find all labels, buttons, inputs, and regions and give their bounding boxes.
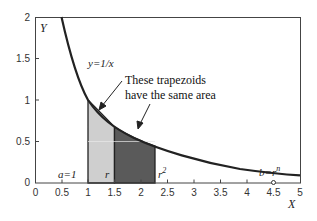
b-marker xyxy=(272,181,276,185)
a-label: a=1 xyxy=(58,168,76,180)
x-tick-5: 5 xyxy=(297,187,303,198)
x-tick-2.5: 2.5 xyxy=(161,187,175,198)
annotation-line-2: have the same area xyxy=(125,88,217,102)
x-tick-0: 0 xyxy=(33,187,39,198)
r-label: r xyxy=(105,168,110,180)
x-tick-4: 4 xyxy=(244,187,250,198)
y-tick-0.5: 0.5 xyxy=(16,136,30,147)
x-tick-3.5: 3.5 xyxy=(214,187,228,198)
curve-label: y=1/x xyxy=(87,57,114,69)
y-tick-1: 1 xyxy=(24,95,30,106)
annotation-line-1: These trapezoids xyxy=(125,73,206,87)
chart-canvas: 0 0.5 1 1.5 2 0 0.5 1 1.5 2 2.5 3 3.5 4 … xyxy=(0,0,317,221)
y-ticks xyxy=(36,59,40,142)
b-label: b=rn xyxy=(259,164,280,178)
y-tick-2: 2 xyxy=(24,12,30,23)
y-axis-label: Y xyxy=(40,21,48,35)
x-axis-label: X xyxy=(287,197,296,211)
x-tick-1: 1 xyxy=(85,187,91,198)
x-tick-2: 2 xyxy=(138,187,144,198)
x-tick-1.5: 1.5 xyxy=(108,187,122,198)
x-tick-3: 3 xyxy=(191,187,197,198)
trapezoid-dark xyxy=(115,127,156,183)
x-tick-4.5: 4.5 xyxy=(267,187,281,198)
r2-label: r2 xyxy=(158,166,166,180)
y-tick-0: 0 xyxy=(24,177,30,188)
y-tick-1.5: 1.5 xyxy=(16,53,30,64)
x-tick-0.5: 0.5 xyxy=(55,187,69,198)
